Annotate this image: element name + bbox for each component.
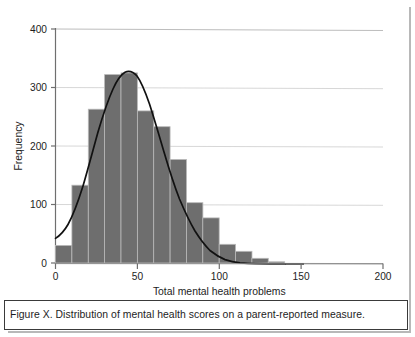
y-tick-label-300: 300 [30,82,47,93]
x-axis-title: Total mental health problems [153,286,286,297]
figure-caption: Figure X. Distribution of mental health … [10,305,402,325]
y-tick-label-100: 100 [30,199,47,210]
y-tick-label-0: 0 [41,258,47,269]
table-row [56,245,72,263]
table-row [236,251,252,263]
y-tick-label-200: 200 [30,141,47,152]
table-row [268,262,284,263]
x-tick-label-50: 50 [132,271,144,282]
x-tick-label-0: 0 [53,271,59,282]
caption-divider [5,300,407,301]
histogram-chart: 400 300 200 100 0 Frequency [4,3,408,300]
table-row [121,73,137,263]
y-axis-title: Frequency [13,121,24,171]
y-tick-label-400: 400 [30,24,47,35]
table-row [252,258,268,263]
table-row [137,111,153,263]
x-tick-label-200: 200 [375,271,392,282]
figure-shadow-bottom [8,331,411,333]
table-row [88,109,104,263]
x-tick-label-150: 150 [293,271,310,282]
table-row [187,203,203,263]
x-tick-label-100: 100 [211,271,228,282]
figure-root: 400 300 200 100 0 Frequency [0,0,415,337]
figure-shadow-right [409,7,411,333]
